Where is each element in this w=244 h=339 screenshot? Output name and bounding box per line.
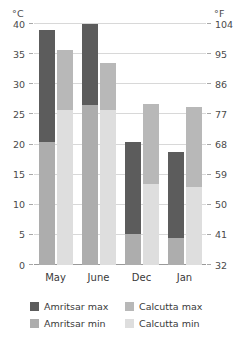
legend-label: Amritsar max [44, 301, 108, 312]
right-tick-mark [207, 174, 211, 175]
legend-swatch-icon [30, 302, 39, 311]
temperature-comparison-chart: °C °F 0510152025303540 32415059687786951… [0, 0, 244, 339]
right-tick-label: 86 [215, 80, 227, 90]
left-tick-label: 35 [13, 50, 25, 60]
right-axis-unit-label: °F [214, 8, 225, 19]
right-tick-label: 32 [215, 261, 227, 271]
left-tick-label: 30 [13, 80, 25, 90]
left-tick-mark [29, 23, 33, 24]
right-tick-label: 77 [215, 110, 227, 120]
left-tick-label: 0 [19, 261, 25, 271]
bar-amritsar-min-dec [125, 234, 141, 265]
bar-amritsar-min-may [39, 142, 55, 266]
right-tick-mark [207, 234, 211, 235]
left-axis-unit-label: °C [12, 8, 24, 19]
legend-item-calcutta-max[interactable]: Calcutta max [125, 301, 220, 312]
left-tick-mark [29, 204, 33, 205]
category-label-june: June [77, 272, 120, 283]
right-tick-mark [207, 264, 211, 265]
left-tick-mark [29, 53, 33, 54]
bar-calcutta-min-june [100, 110, 116, 265]
bar-group [125, 24, 159, 265]
legend-swatch-icon [30, 319, 39, 328]
right-tick-label: 104 [215, 20, 233, 30]
left-tick-label: 10 [13, 200, 25, 210]
bar-group [168, 24, 202, 265]
left-tick-mark [29, 234, 33, 235]
right-tick-label: 41 [215, 230, 227, 240]
right-tick-label: 68 [215, 140, 227, 150]
left-tick-mark [29, 83, 33, 84]
legend-label: Amritsar min [44, 318, 106, 329]
plot-area: 0510152025303540 3241505968778695104 [34, 24, 206, 265]
bar-calcutta-min-dec [143, 184, 159, 265]
right-tick-mark [207, 23, 211, 24]
legend-label: Calcutta max [139, 301, 202, 312]
category-label-jan: Jan [163, 272, 206, 283]
right-tick-label: 50 [215, 200, 227, 210]
left-tick-label: 20 [13, 140, 25, 150]
legend-item-amritsar-min[interactable]: Amritsar min [30, 318, 125, 329]
right-tick-mark [207, 53, 211, 54]
right-tick-mark [207, 113, 211, 114]
left-tick-label: 15 [13, 170, 25, 180]
right-tick-label: 95 [215, 50, 227, 60]
category-label-dec: Dec [120, 272, 163, 283]
left-tick-mark [29, 113, 33, 114]
left-tick-mark [29, 264, 33, 265]
category-label-may: May [34, 272, 77, 283]
bar-calcutta-min-may [57, 110, 73, 265]
left-tick-label: 40 [13, 20, 25, 30]
bar-amritsar-min-june [82, 105, 98, 265]
legend-label: Calcutta min [139, 318, 200, 329]
bar-amritsar-min-jan [168, 238, 184, 265]
right-tick-mark [207, 144, 211, 145]
right-tick-mark [207, 204, 211, 205]
chart-legend: Amritsar maxCalcutta maxAmritsar minCalc… [30, 298, 220, 332]
bar-group [39, 24, 73, 265]
left-tick-label: 5 [19, 230, 25, 240]
bar-calcutta-min-jan [186, 187, 202, 265]
right-tick-label: 59 [215, 170, 227, 180]
left-tick-label: 25 [13, 110, 25, 120]
legend-item-calcutta-min[interactable]: Calcutta min [125, 318, 220, 329]
right-tick-mark [207, 83, 211, 84]
left-tick-mark [29, 174, 33, 175]
legend-swatch-icon [125, 319, 134, 328]
legend-swatch-icon [125, 302, 134, 311]
bar-group [82, 24, 116, 265]
left-tick-mark [29, 144, 33, 145]
legend-item-amritsar-max[interactable]: Amritsar max [30, 301, 125, 312]
